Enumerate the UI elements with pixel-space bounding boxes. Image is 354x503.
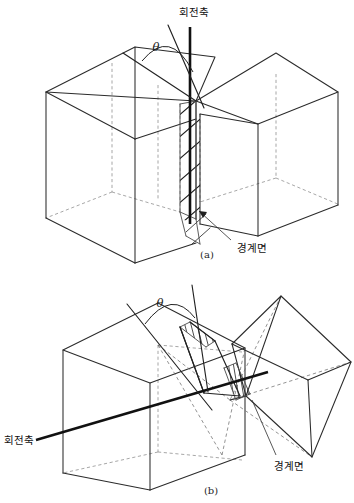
figure-a-boundary-plane-leader [199,211,231,240]
figure-a-theta-label: θ [153,40,160,54]
figure-b-twin-plane-outlines [180,322,240,396]
figure-a-group: 회전축 경계면 θ (a) [46,6,340,263]
figure-b-left-block-hidden-edges [63,345,242,473]
figure-b-group: 회전축 경계면 θ (b) [4,285,351,496]
figure-a-left-block-hidden-edges [46,63,180,218]
figure-a-boundary-plane-label: 경계면 [237,242,267,254]
figure-b-caption: (b) [204,485,218,496]
figure-a-boundary-plane-outline [180,101,196,219]
two-panel-crystal-twin-diagram: 회전축 경계면 θ (a) [0,0,354,503]
figure-a-rotation-axis-label: 회전축 [179,6,209,18]
figure-b-theta-label: θ [157,296,164,310]
figure-b-left-block [63,303,245,490]
figure-a-caption: (a) [200,249,214,260]
figure-b-boundary-plane-label: 경계면 [274,460,304,472]
diagram-canvas: 회전축 경계면 θ (a) [0,0,354,503]
figure-a-right-block [196,53,338,236]
figure-b-boundary-plane-leader [252,400,276,455]
figure-a-right-block-hidden-edges [200,74,340,205]
figure-b-rotation-axis-label: 회전축 [4,434,34,446]
